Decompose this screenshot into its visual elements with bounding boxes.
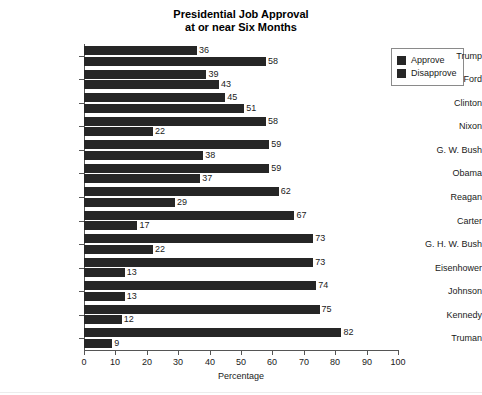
bar-value-label: 74 [316,279,328,291]
y-tick-mark [79,244,84,245]
bar-value-label: 36 [197,44,209,56]
x-tick-mark [147,351,148,355]
chart-title-line-1: Presidential Job Approval [84,8,398,21]
chart-title-line-2: at or near Six Months [84,21,398,34]
x-tick-label-10: 10 [102,357,128,368]
y-tick-mark [79,79,84,80]
y-tick-label-johnson: Johnson [404,286,482,296]
y-tick-mark [79,150,84,151]
y-tick-label-nixon: Nixon [404,121,482,131]
x-tick-mark [178,351,179,355]
bar-group: 7322 [84,232,398,256]
bar-approve[interactable] [84,328,341,337]
bar-value-label: 39 [206,68,218,80]
bar-value-label: 22 [153,125,165,137]
bar-approve[interactable] [84,140,269,149]
x-tick-mark [84,351,85,355]
bar-value-label: 73 [313,256,325,268]
x-tick-mark [272,351,273,355]
bar-value-label: 73 [313,232,325,244]
bottom-rule [0,392,482,393]
bar-approve[interactable] [84,281,316,290]
x-tick-label-80: 80 [322,357,348,368]
bar-disapprove[interactable] [84,127,153,136]
chart-title: Presidential Job Approval at or near Six… [84,8,398,34]
bar-value-label: 17 [137,219,149,231]
y-tick-label-kennedy: Kennedy [404,310,482,320]
bar-approve[interactable] [84,70,206,79]
bar-disapprove[interactable] [84,268,125,277]
bar-approve[interactable] [84,234,313,243]
plot-area: 3658394345515822593859376229671773227313… [84,44,398,350]
bar-value-label: 29 [175,196,187,208]
bar-approve[interactable] [84,305,320,314]
bar-value-label: 13 [125,290,137,302]
bar-disapprove[interactable] [84,104,244,113]
bar-approve[interactable] [84,164,269,173]
bar-group: 6717 [84,209,398,233]
bar-approve[interactable] [84,211,294,220]
y-tick-mark [79,126,84,127]
x-tick-mark [398,351,399,355]
bar-disapprove[interactable] [84,221,137,230]
bar-disapprove[interactable] [84,198,175,207]
y-tick-label-g-h-w-bush: G. H. W. Bush [404,239,482,249]
bar-group: 7413 [84,279,398,303]
bar-approve[interactable] [84,93,225,102]
y-tick-label-g-w-bush: G. W. Bush [404,145,482,155]
bar-value-label: 37 [200,172,212,184]
y-tick-mark [79,268,84,269]
y-tick-label-ford: Ford [404,74,482,84]
x-tick-label-100: 100 [385,357,411,368]
bar-group: 4551 [84,91,398,115]
bar-group: 6229 [84,185,398,209]
y-tick-mark [79,338,84,339]
bar-disapprove[interactable] [84,151,203,160]
bar-group: 5937 [84,162,398,186]
bar-disapprove[interactable] [84,315,122,324]
y-tick-mark [79,197,84,198]
x-tick-mark [335,351,336,355]
bar-value-label: 59 [269,138,281,150]
x-tick-label-90: 90 [354,357,380,368]
bar-disapprove[interactable] [84,245,153,254]
bar-group: 5938 [84,138,398,162]
bar-value-label: 13 [125,266,137,278]
bar-disapprove[interactable] [84,292,125,301]
x-tick-label-20: 20 [134,357,160,368]
bar-approve[interactable] [84,117,266,126]
y-tick-mark [79,173,84,174]
bar-value-label: 58 [266,55,278,67]
x-tick-mark [304,351,305,355]
y-tick-label-carter: Carter [404,216,482,226]
bar-approve[interactable] [84,258,313,267]
y-tick-mark [79,221,84,222]
bar-disapprove[interactable] [84,80,219,89]
x-tick-mark [115,351,116,355]
bar-value-label: 9 [112,337,119,349]
bar-approve[interactable] [84,46,197,55]
bar-value-label: 22 [153,243,165,255]
x-tick-label-30: 30 [165,357,191,368]
x-tick-mark [367,351,368,355]
bar-disapprove[interactable] [84,339,112,348]
bar-value-label: 75 [320,303,332,315]
x-tick-label-60: 60 [259,357,285,368]
y-tick-mark [79,56,84,57]
y-tick-label-truman: Truman [404,333,482,343]
y-tick-label-obama: Obama [404,168,482,178]
x-tick-label-70: 70 [291,357,317,368]
bar-value-label: 62 [279,185,291,197]
bar-group: 7313 [84,256,398,280]
x-tick-label-40: 40 [197,357,223,368]
y-tick-mark [79,103,84,104]
bar-disapprove[interactable] [84,174,200,183]
bar-value-label: 51 [244,102,256,114]
y-tick-label-trump: Trump [404,51,482,61]
bar-value-label: 82 [341,326,353,338]
y-tick-label-eisenhower: Eisenhower [404,263,482,273]
bar-disapprove[interactable] [84,57,266,66]
bar-value-label: 59 [269,162,281,174]
bar-value-label: 45 [225,91,237,103]
bar-group: 3658 [84,44,398,68]
